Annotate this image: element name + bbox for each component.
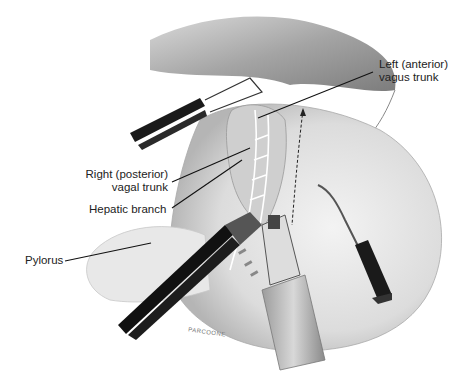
label-hepatic-branch: Hepatic branch bbox=[89, 203, 166, 216]
label-right-vagal-line2: vagal trunk bbox=[82, 181, 168, 194]
label-left-vagus: Left (anterior) vagus trunk bbox=[379, 58, 448, 84]
label-left-vagus-line2: vagus trunk bbox=[379, 71, 448, 84]
illustration-drawing bbox=[0, 0, 469, 376]
label-pylorus: Pylorus bbox=[25, 254, 63, 267]
label-right-vagal-line1: Right (posterior) bbox=[82, 168, 168, 181]
label-right-vagal: Right (posterior) vagal trunk bbox=[82, 168, 168, 194]
label-left-vagus-line1: Left (anterior) bbox=[379, 58, 448, 71]
surgical-illustration: Left (anterior) vagus trunk Right (poste… bbox=[0, 0, 469, 376]
liver-lobe bbox=[150, 17, 396, 91]
